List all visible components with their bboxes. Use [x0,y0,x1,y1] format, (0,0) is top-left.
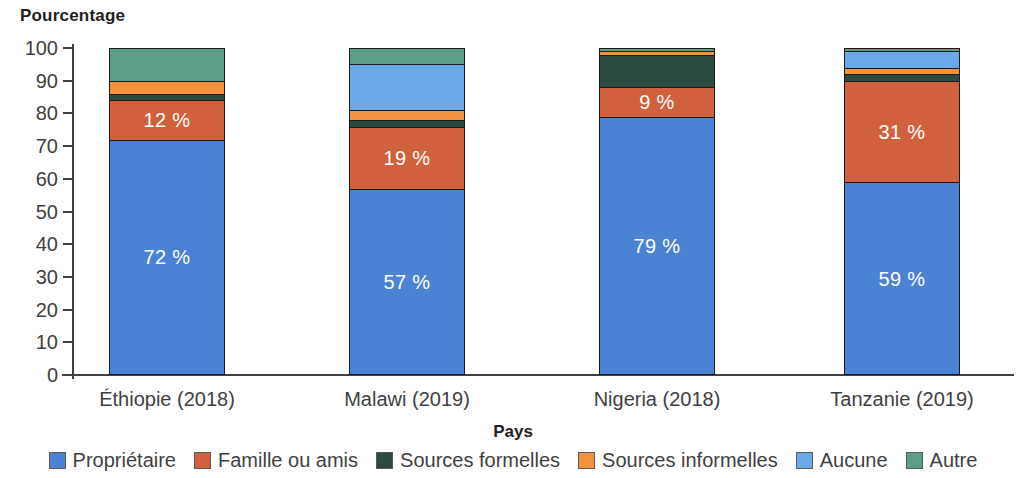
bar-segment[interactable] [599,51,715,54]
legend-label: Aucune [820,450,888,470]
legend-label: Sources formelles [400,450,560,470]
bar-segment[interactable] [844,51,960,67]
y-axis-tick-label: 20 [36,300,58,320]
bar-segment[interactable]: 31 % [844,81,960,182]
bar-segment[interactable] [109,94,225,101]
bar-segment[interactable]: 19 % [349,127,465,189]
y-axis-tick-label: 100 [25,38,58,58]
chart-legend: PropriétaireFamille ou amisSources forme… [0,450,1026,470]
bar-segment[interactable]: 59 % [844,182,960,375]
bar-segment-value-label: 12 % [144,110,191,130]
x-axis-tick-label: Tanzanie (2019) [787,388,1017,411]
bar-1[interactable]: 72 %12 % [109,48,225,375]
legend-swatch-icon [906,452,923,469]
legend-swatch-icon [194,452,211,469]
bar-segment[interactable] [349,110,465,120]
legend-item-1[interactable]: Propriétaire [49,450,176,470]
bar-segment-value-label: 79 % [634,236,681,256]
y-axis-tick [63,80,72,82]
bar-segment[interactable] [349,64,465,110]
x-axis-title: Pays [0,422,1026,442]
y-axis-tick [63,112,72,114]
y-axis-tick-label: 10 [36,332,58,352]
legend-swatch-icon [578,452,595,469]
y-axis-tick-label: 50 [36,202,58,222]
bar-segment[interactable] [844,74,960,81]
y-axis-tick [63,211,72,213]
y-axis-tick-label: 60 [36,169,58,189]
legend-item-2[interactable]: Famille ou amis [194,450,358,470]
bar-segment[interactable]: 57 % [349,189,465,375]
y-axis-tick-label: 40 [36,234,58,254]
bar-segment[interactable] [349,48,465,64]
bar-segment-value-label: 19 % [384,148,431,168]
legend-label: Famille ou amis [218,450,358,470]
bar-segment[interactable] [599,55,715,88]
bar-segment[interactable]: 79 % [599,117,715,375]
bar-segment-value-label: 72 % [144,247,191,267]
x-axis-tick-label: Malawi (2019) [292,388,522,411]
bar-segment[interactable] [109,81,225,94]
bar-segment[interactable] [844,68,960,75]
y-axis-tick [63,145,72,147]
bar-segment-value-label: 9 % [639,92,674,112]
bar-3[interactable]: 79 %9 % [599,48,715,375]
legend-swatch-icon [796,452,813,469]
y-axis-tick [63,178,72,180]
y-axis-tick-label: 90 [36,71,58,91]
legend-label: Autre [930,450,978,470]
y-axis-tick [63,47,72,49]
bar-4[interactable]: 59 %31 % [844,48,960,375]
legend-item-6[interactable]: Autre [906,450,978,470]
legend-label: Sources informelles [602,450,778,470]
bar-2[interactable]: 57 %19 % [349,48,465,375]
legend-item-5[interactable]: Aucune [796,450,888,470]
bar-segment-value-label: 57 % [384,272,431,292]
x-axis-tick-label: Éthiopie (2018) [52,388,282,411]
bar-segment[interactable] [599,48,715,51]
legend-swatch-icon [376,452,393,469]
plot-area: 72 %12 %57 %19 %79 %9 %59 %31 % [72,48,1000,375]
y-axis-tick [63,276,72,278]
x-axis-tick-label: Nigeria (2018) [542,388,772,411]
bar-segment[interactable] [349,120,465,127]
y-axis-tick [63,243,72,245]
legend-label: Propriétaire [73,450,176,470]
y-axis-tick [63,374,72,376]
legend-item-4[interactable]: Sources informelles [578,450,778,470]
y-axis-tick-label: 30 [36,267,58,287]
bar-segment[interactable]: 9 % [599,87,715,116]
y-axis-tick-label: 70 [36,136,58,156]
y-axis-tick-label: 80 [36,103,58,123]
legend-item-3[interactable]: Sources formelles [376,450,560,470]
bar-segment[interactable] [109,48,225,81]
y-axis-tick [63,341,72,343]
y-axis-title: Pourcentage [20,6,125,26]
bar-segment[interactable] [844,48,960,51]
bar-segment-value-label: 59 % [879,269,926,289]
bar-segment-value-label: 31 % [879,122,926,142]
legend-swatch-icon [49,452,66,469]
bar-segment[interactable]: 12 % [109,100,225,139]
y-axis-tick [63,309,72,311]
bar-segment[interactable]: 72 % [109,140,225,375]
y-axis-tick-label: 0 [47,365,58,385]
